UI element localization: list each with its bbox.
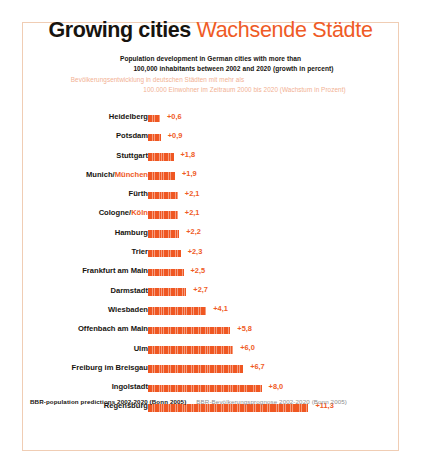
city-label: Ingolstadt — [0, 382, 148, 391]
bar-track — [148, 404, 308, 412]
bar-track — [148, 115, 160, 123]
city-label: Stuttgart — [0, 151, 148, 160]
bar-track — [148, 230, 179, 238]
subtitle-german-line-1: Bevölkerungsentwicklung in deutschen Stä… — [0, 75, 421, 85]
bar — [148, 365, 243, 373]
city-label: Potsdam — [0, 131, 148, 140]
chart-row: Fürth+2,1 — [0, 187, 377, 206]
bar-track — [148, 172, 175, 180]
city-label: Heidelberg — [0, 112, 148, 121]
bar-track — [148, 192, 178, 200]
city-label: Munich/München — [0, 170, 148, 179]
chart-row: Potsdam+0,9 — [0, 129, 377, 148]
city-label-main: Offenbach am Main — [78, 324, 148, 333]
bar-value-label: +5,8 — [237, 324, 252, 333]
bar-value-label: +4,1 — [213, 304, 228, 313]
chart-row: Wiesbaden+4,1 — [0, 303, 377, 322]
bar — [148, 288, 186, 296]
city-label: Darmstadt — [0, 286, 148, 295]
bar — [148, 153, 174, 161]
bar-track — [148, 250, 181, 258]
chart-row: Freiburg im Breisgau+6,7 — [0, 361, 377, 380]
bar — [148, 134, 161, 142]
city-label-main: Frankfurt am Main — [82, 266, 148, 275]
chart-row: Darmstadt+2,7 — [0, 284, 377, 303]
bar-value-label: +2,2 — [186, 227, 201, 236]
subtitle-english-line-2: 100,000 inhabitants between 2002 and 202… — [0, 64, 421, 74]
subtitle-german-line-2: 100.000 Einwohner im Zeitraum 2000 bis 2… — [0, 85, 421, 95]
city-label-main: Trier — [132, 247, 148, 256]
bar-value-label: +2,1 — [185, 208, 200, 217]
source-footer: BBR-population predictions 2002-2020 (Bo… — [0, 398, 377, 405]
city-label-main: Ingolstadt — [112, 382, 148, 391]
city-label: Freiburg im Breisgau — [0, 363, 148, 372]
subtitle-english: Population development in German cities … — [0, 54, 421, 73]
subtitle-german: Bevölkerungsentwicklung in deutschen Stä… — [0, 75, 421, 94]
chart-row: Munich/München+1,9 — [0, 168, 377, 187]
bar-value-label: +1,8 — [181, 150, 196, 159]
city-label-main: Potsdam — [116, 131, 148, 140]
city-label: Wiesbaden — [0, 305, 148, 314]
bar-value-label: +6,0 — [240, 343, 255, 352]
subtitle-english-line-1: Population development in German cities … — [0, 54, 421, 64]
chart-row: Ingolstadt+8,0 — [0, 380, 377, 399]
city-label-main: Stuttgart — [116, 151, 148, 160]
bar — [148, 385, 262, 393]
page-title: Growing cities Wachsende Städte — [0, 18, 421, 43]
chart-row: Hamburg+2,2 — [0, 226, 377, 245]
city-label: Fürth — [0, 189, 148, 198]
bar-track — [148, 288, 186, 296]
bar-value-label: +2,1 — [185, 189, 200, 198]
bar-track — [148, 327, 230, 335]
city-label: Trier — [0, 247, 148, 256]
bar-value-label: +2,7 — [193, 285, 208, 294]
bar-track — [148, 307, 206, 315]
bar-value-label: +2,3 — [188, 247, 203, 256]
city-label-main: Ulm — [134, 344, 148, 353]
bar-track — [148, 365, 243, 373]
city-label: Frankfurt am Main — [0, 266, 148, 275]
bar — [148, 346, 233, 354]
bar — [148, 269, 184, 277]
city-label-german: Köln — [131, 208, 148, 217]
bar — [148, 327, 230, 335]
title-german: Wachsende Städte — [197, 18, 373, 42]
bar — [148, 250, 181, 258]
bar — [148, 192, 178, 200]
bar-track — [148, 134, 161, 142]
city-label-main: Wiesbaden — [108, 305, 148, 314]
bar-track — [148, 346, 233, 354]
infographic-poster: Growing cities Wachsende Städte Populati… — [0, 0, 421, 474]
city-label-main: Darmstadt — [110, 286, 148, 295]
chart-row: Trier+2,3 — [0, 245, 377, 264]
bar-track — [148, 269, 184, 277]
bar-value-label: +0,9 — [168, 131, 183, 140]
chart-row: Offenbach am Main+5,8 — [0, 322, 377, 341]
source-english: BBR-population predictions 2002-2020 (Bo… — [30, 398, 186, 405]
city-label-german: München — [115, 170, 148, 179]
horizontal-bar-chart: Heidelberg+0,6Potsdam+0,9Stuttgart+1,8Mu… — [0, 110, 377, 419]
city-label: Ulm — [0, 344, 148, 353]
bar-track — [148, 211, 178, 219]
bar — [148, 211, 178, 219]
city-label-main: Cologne/ — [99, 208, 131, 217]
bar-value-label: +1,9 — [182, 169, 197, 178]
bar-value-label: +2,5 — [191, 266, 206, 275]
city-label: Offenbach am Main — [0, 324, 148, 333]
source-german: BBR-Bevölkerungsprognose 2002-2020 (Bonn… — [196, 398, 347, 405]
city-label-main: Hamburg — [115, 228, 148, 237]
city-label: Cologne/Köln — [0, 208, 148, 217]
city-label-main: Heidelberg — [109, 112, 148, 121]
bar — [148, 307, 206, 315]
bar-value-label: +8,0 — [269, 382, 284, 391]
city-label-main: Fürth — [129, 189, 148, 198]
bar-value-label: +0,6 — [167, 112, 182, 121]
bar-track — [148, 153, 174, 161]
bar — [148, 172, 175, 180]
chart-row: Stuttgart+1,8 — [0, 149, 377, 168]
bar — [148, 115, 160, 123]
city-label: Hamburg — [0, 228, 148, 237]
bar-track — [148, 385, 262, 393]
city-label-main: Munich/ — [86, 170, 115, 179]
chart-row: Heidelberg+0,6 — [0, 110, 377, 129]
